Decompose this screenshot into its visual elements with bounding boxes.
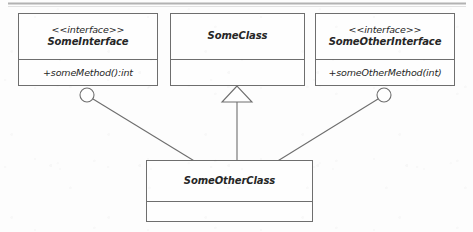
class-name-label: SomeOtherClass — [184, 175, 275, 188]
class-members-some-other-class — [147, 201, 312, 221]
class-name-label: SomeClass — [208, 30, 268, 43]
member-label: +someOtherMethod(int) — [328, 67, 441, 79]
class-name-label: SomeInterface — [47, 36, 128, 49]
stereotype-label: <<interface>> — [349, 24, 422, 36]
realization-left-connector — [80, 88, 196, 162]
class-box-some-other-class[interactable]: SomeOtherClass — [146, 160, 313, 222]
realization-right-connector — [276, 88, 391, 162]
uml-diagram-canvas: <<interface>> SomeInterface +someMethod(… — [0, 0, 473, 232]
class-header-some-other-class: SomeOtherClass — [147, 161, 312, 201]
class-box-some-interface[interactable]: <<interface>> SomeInterface +someMethod(… — [18, 13, 158, 86]
member-label: +someMethod():int — [43, 67, 133, 79]
generalization-middle-connector — [222, 86, 252, 160]
class-header-some-interface: <<interface>> SomeInterface — [19, 14, 157, 59]
class-members-some-other-interface: +someOtherMethod(int) — [316, 59, 454, 85]
class-name-label: SomeOtherInterface — [329, 36, 442, 49]
class-header-some-class: SomeClass — [171, 14, 304, 59]
stereotype-label: <<interface>> — [52, 24, 125, 36]
class-members-some-interface: +someMethod():int — [19, 59, 157, 85]
class-box-some-class[interactable]: SomeClass — [170, 13, 305, 86]
class-members-some-class — [171, 59, 304, 85]
class-box-some-other-interface[interactable]: <<interface>> SomeOtherInterface +someOt… — [315, 13, 455, 86]
class-header-some-other-interface: <<interface>> SomeOtherInterface — [316, 14, 454, 59]
